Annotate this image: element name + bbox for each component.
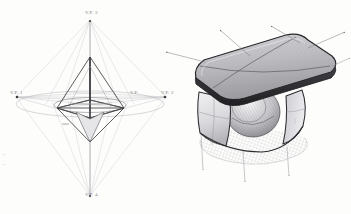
arrow-side-right[interactable]	[308, 32, 345, 48]
construction-rays-bottom	[16, 97, 166, 196]
construction-rays-horizon	[16, 92, 166, 118]
right-stool-object	[166, 26, 350, 182]
sketch-canvas	[0, 0, 351, 214]
sketch-page: V.P. 3 V.P. 1 V.P. 2 V.P. 4 V.P. ≡ ≡	[0, 0, 351, 214]
arrow-top-left[interactable]	[166, 52, 205, 62]
vanishing-point-markers	[16, 20, 167, 197]
side-panel-right	[283, 90, 305, 144]
pyramid-base-square	[57, 100, 124, 118]
left-construction-diagram	[16, 20, 167, 198]
upper-pyramid	[57, 57, 124, 118]
construction-rays-top	[16, 20, 166, 198]
